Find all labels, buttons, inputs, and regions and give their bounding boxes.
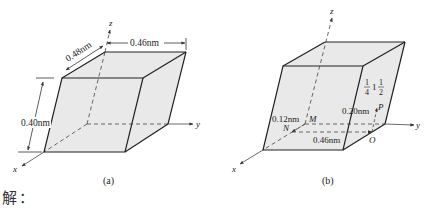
- diagram-canvas: z y x 0.48nm 0.46nm 0.40nm (a): [0, 0, 428, 208]
- caption-a: (a): [103, 175, 114, 187]
- dim-height-label-a: 0.40nm: [21, 118, 50, 128]
- solution-label: 解：: [2, 186, 36, 207]
- svg-text:4: 4: [365, 88, 369, 97]
- cell-a-fill: [44, 52, 186, 152]
- point-n-label: N: [282, 123, 290, 133]
- dim-depth-label-a: 0.48nm: [64, 39, 94, 63]
- dim-height-label-b: 0.20nm: [342, 106, 369, 116]
- z-axis-label-b: z: [329, 6, 334, 16]
- point-o-label: O: [369, 135, 376, 145]
- figure-a: z y x 0.48nm 0.46nm 0.40nm (a): [12, 18, 200, 187]
- point-p-label: P: [377, 102, 384, 112]
- svg-text:1: 1: [365, 78, 369, 87]
- figure-b: z y x 0.12nm M N 0.46nm O 0.20nm P 1 4 1…: [231, 6, 420, 187]
- dim-width-label-a: 0.46nm: [130, 38, 159, 48]
- svg-text:1: 1: [372, 82, 377, 92]
- x-axis-label-a: x: [12, 164, 17, 174]
- x-axis-label-b: x: [231, 164, 236, 174]
- dim-width-label-b: 0.46nm: [313, 135, 340, 145]
- y-axis-label-a: y: [195, 119, 200, 129]
- svg-text:1: 1: [379, 78, 383, 87]
- point-m-label: M: [308, 114, 317, 124]
- cell-b-fill: [263, 42, 405, 150]
- svg-text:2: 2: [379, 88, 383, 97]
- z-axis-label-a: z: [108, 18, 113, 28]
- caption-b: (b): [322, 175, 334, 187]
- y-axis-label-b: y: [415, 120, 420, 130]
